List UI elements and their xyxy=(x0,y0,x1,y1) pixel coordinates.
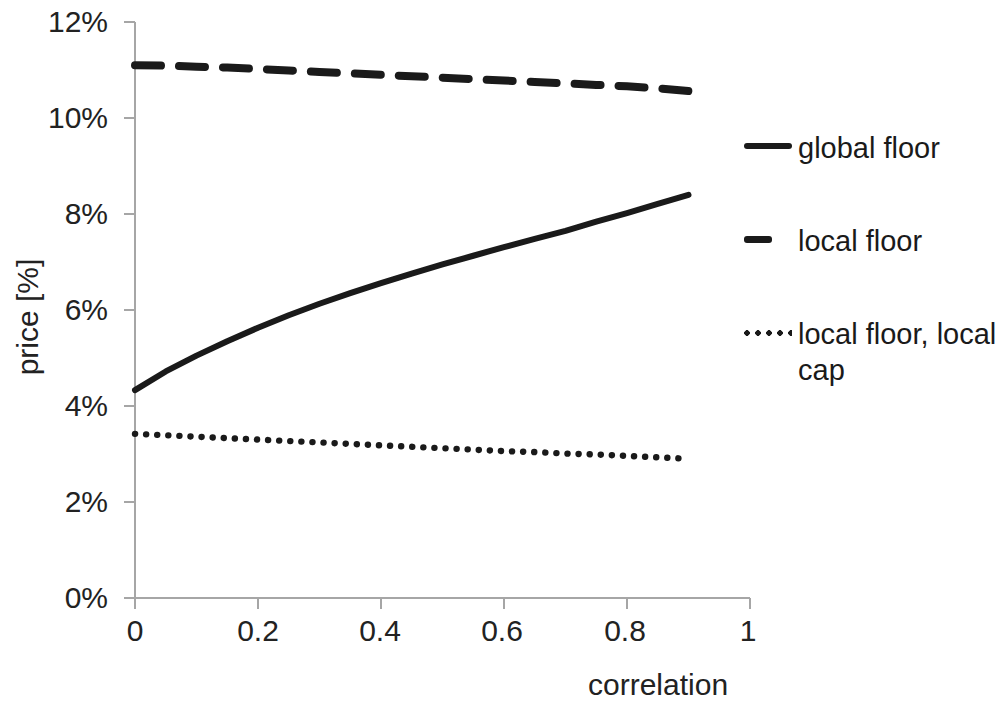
series-line-local-floor xyxy=(135,65,689,91)
legend-label-local-floor: local floor xyxy=(798,223,922,259)
data-series-layer xyxy=(135,65,689,459)
x-axis-ticks xyxy=(135,598,750,609)
axis-lines xyxy=(135,22,750,598)
dashed-line-icon xyxy=(742,223,792,253)
dotted-line-icon xyxy=(742,316,792,346)
chart-container: price [%] correlation 12% 10% 8% 6% 4% 2… xyxy=(0,0,1001,706)
legend-item-local-floor-local-cap[interactable]: local floor, local cap xyxy=(742,316,1000,388)
y-axis-ticks xyxy=(124,22,135,598)
legend-label-global-floor: global floor xyxy=(798,130,940,166)
legend-label-local-floor-local-cap: local floor, local cap xyxy=(798,316,1000,388)
legend-item-global-floor[interactable]: global floor xyxy=(742,130,1000,166)
series-line-local-floor-local-cap xyxy=(135,434,689,459)
series-line-global-floor xyxy=(135,195,689,390)
legend-item-local-floor[interactable]: local floor xyxy=(742,223,1000,259)
solid-line-icon xyxy=(742,130,792,160)
